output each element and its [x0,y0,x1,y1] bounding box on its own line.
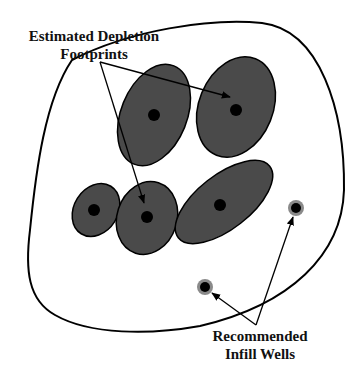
reservoir-diagram: Estimated Depletion Footprints Recommend… [0,0,360,370]
depletion-label-line1: Estimated Depletion [14,27,174,45]
reservoir-boundary [28,22,344,332]
existing-well-icon [141,211,153,223]
infill-label-line1: Recommended [200,327,320,345]
infill-label-line2: Infill Wells [200,345,320,363]
infill-well-icon [291,203,301,213]
existing-well-icon [148,109,160,121]
existing-well-icon [214,199,226,211]
existing-well-icon [88,204,100,216]
depletion-footprints [63,45,290,263]
existing-well-icon [230,104,242,116]
depletion-label-line2: Footprints [14,45,174,63]
depletion-footprints-label: Estimated Depletion Footprints [14,27,174,63]
leader-arrow-infill-upper [256,217,293,325]
infill-wells-label: Recommended Infill Wells [200,327,320,363]
infill-well-icon [200,282,210,292]
